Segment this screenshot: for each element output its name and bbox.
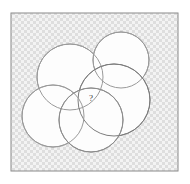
geometry-puzzle-figure: ? (0, 0, 190, 184)
unknown-region-marker: ? (89, 93, 93, 103)
